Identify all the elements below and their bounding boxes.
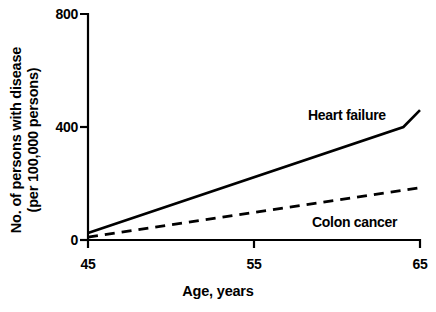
series-line-heart-failure <box>88 110 420 233</box>
series-line-colon-cancer <box>88 188 420 237</box>
chart-figure: No. of persons with disease (per 100,000… <box>0 0 436 312</box>
plot-area <box>0 0 436 312</box>
